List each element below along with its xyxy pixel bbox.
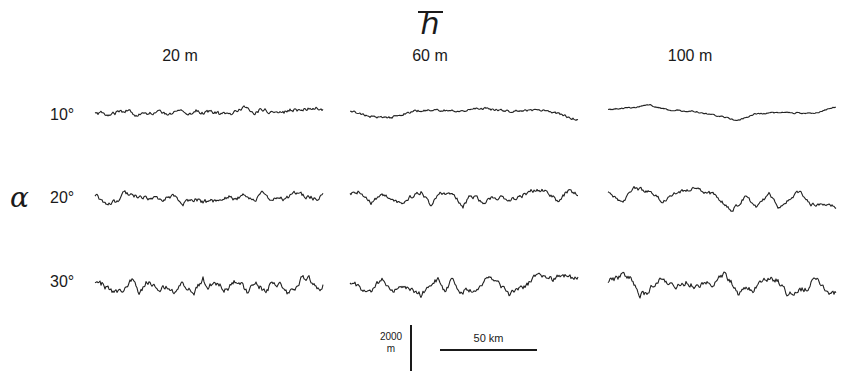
terrain-profile-line (95, 276, 323, 296)
overbar (418, 11, 443, 13)
profile-panel-100m-20deg (608, 179, 836, 219)
terrain-profile-line (608, 105, 836, 121)
column-label-100m: 100 m (630, 47, 750, 65)
vertical-scale-label: 2000 m (376, 331, 406, 355)
vertical-scale-unit: m (376, 343, 406, 355)
profile-panel-20m-10deg (95, 95, 323, 135)
profile-panel-60m-20deg (350, 179, 578, 219)
vertical-scale-bar (410, 325, 412, 371)
terrain-profile-line (608, 272, 836, 298)
row-label-10deg: 10° (50, 106, 90, 124)
row-label-30deg: 30° (50, 273, 90, 291)
terrain-profile-line (95, 106, 323, 117)
profile-panel-60m-10deg (350, 95, 578, 135)
row-label-20deg: 20° (50, 189, 90, 207)
terrain-profile-line (350, 189, 578, 208)
terrain-profile-line (350, 107, 578, 120)
terrain-profile-line (350, 273, 578, 297)
horizontal-scale-bar (440, 349, 537, 351)
profile-panel-20m-20deg (95, 179, 323, 219)
vertical-scale-value: 2000 (376, 331, 406, 343)
profile-panel-100m-10deg (608, 95, 836, 135)
terrain-profile-line (95, 191, 323, 206)
profile-panel-20m-30deg (95, 266, 323, 306)
terrain-profile-line (608, 187, 836, 212)
column-label-60m: 60 m (370, 47, 490, 65)
row-axis-alpha: α (10, 181, 29, 214)
horizontal-scale-label: 50 km (440, 332, 537, 344)
column-label-20m: 20 m (120, 47, 240, 65)
profile-panel-60m-30deg (350, 266, 578, 306)
profile-panel-100m-30deg (608, 266, 836, 306)
